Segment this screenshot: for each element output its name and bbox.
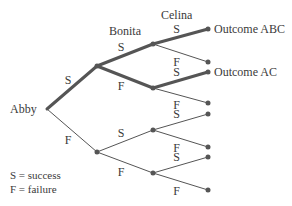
level-label-bonita: Bonita [109,24,142,38]
edge-A_F_B_F-leaf_FFF [153,173,208,190]
edge-A_F_B_S-leaf_FSF [153,130,208,147]
edge-root-A_S [47,66,97,109]
level-label-celina: Celina [161,8,193,22]
node-leaf_SSF [206,60,211,65]
node-A_S [95,64,100,69]
node-A_S_B_S [151,42,156,47]
node-A_S_B_F [151,86,156,91]
tree-edges [47,29,208,190]
legend-failure: F = failure [10,183,57,195]
edge-label-A_F-A_F_B_S: S [118,126,125,140]
node-leaf_FFF [206,188,211,193]
edge-label-A_F_B_F-leaf_FFS: S [173,150,180,164]
edge-A_S_B_F-leaf_SFF [153,88,208,103]
edge-label-A_F-A_F_B_F: F [118,165,125,179]
edge-A_S_B_S-leaf_SSF [153,44,208,62]
node-A_F_B_S [151,128,156,133]
node-leaf_SFS [206,70,211,75]
root-label-abby: Abby [10,102,37,116]
edge-A_F-A_F_B_S [97,130,153,152]
edge-label-root-A_F: F [65,133,72,147]
edge-label-A_F_B_F-leaf_FFF: F [173,184,180,198]
edge-A_F-A_F_B_F [97,152,153,173]
edge-A_S-A_S_B_F [97,66,153,88]
edge-label-A_S_B_F-leaf_SFS: S [173,65,180,79]
edge-label-A_F_B_S-leaf_FSS: S [173,107,180,121]
edge-root-A_F [47,109,97,152]
node-leaf_SFF [206,101,211,106]
tree-nodes [95,27,211,193]
edge-label-root-A_S: S [65,73,72,87]
probability-tree-diagram: SFSFSFSFSFSFSF Abby Bonita Celina Outcom… [0,0,292,206]
outcome-ac-label: Outcome AC [214,65,277,79]
edge-A_S_B_S-leaf_SSS [153,29,208,44]
node-leaf_FSS [206,112,211,117]
tree-edge-labels: SFSFSFSFSFSFSF [65,22,181,198]
node-A_F [95,150,100,155]
node-leaf_FFS [206,155,211,160]
edge-A_F_B_F-leaf_FFS [153,157,208,173]
edge-label-A_S_B_S-leaf_SSS: S [173,22,180,36]
edge-A_S_B_F-leaf_SFS [153,72,208,88]
node-leaf_SSS [206,27,211,32]
edge-A_S-A_S_B_S [97,44,153,66]
outcome-abc-label: Outcome ABC [214,22,285,36]
edge-label-A_S-A_S_B_S: S [118,40,125,54]
node-leaf_FSF [206,145,211,150]
edge-A_F_B_S-leaf_FSS [153,114,208,130]
node-A_F_B_F [151,171,156,176]
edge-label-A_S-A_S_B_F: F [118,79,125,93]
legend-success: S = success [10,169,61,181]
